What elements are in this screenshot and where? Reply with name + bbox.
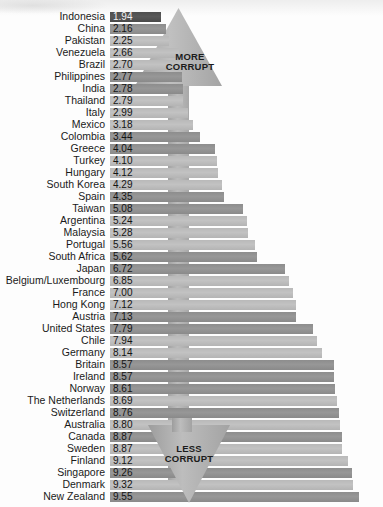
value-bar: 5.56 <box>110 240 255 250</box>
country-label: South Korea <box>0 179 105 190</box>
bar-row: Austria7.13 <box>0 312 383 323</box>
bar-value-label: 8.69 <box>113 395 132 406</box>
country-label: Hong Kong <box>0 299 105 310</box>
value-bar: 7.94 <box>110 336 317 346</box>
bar-rows: Indonesia1.94China2.16Pakistan2.25Venezu… <box>0 0 383 507</box>
country-label: Taiwan <box>0 203 105 214</box>
value-bar: 2.79 <box>110 96 183 106</box>
value-bar: 4.29 <box>110 180 222 190</box>
value-bar: 5.24 <box>110 216 247 226</box>
country-label: Austria <box>0 311 105 322</box>
bar-row: South Korea4.29 <box>0 180 383 191</box>
value-bar: 5.28 <box>110 228 248 238</box>
corruption-index-chart: Indonesia1.94China2.16Pakistan2.25Venezu… <box>0 0 383 507</box>
bar-row: Greece4.04 <box>0 144 383 155</box>
bar-value-label: 5.08 <box>113 203 132 214</box>
bar-value-label: 2.16 <box>113 23 132 34</box>
bar-value-label: 7.94 <box>113 335 132 346</box>
bar-value-label: 3.18 <box>113 119 132 130</box>
bar-value-label: 8.14 <box>113 347 132 358</box>
country-label: Britain <box>0 359 105 370</box>
country-label: Finland <box>0 455 105 466</box>
bar-row: Malaysia5.28 <box>0 228 383 239</box>
value-bar: 6.72 <box>110 264 285 274</box>
bar-row: Germany8.14 <box>0 348 383 359</box>
bar-value-label: 7.12 <box>113 299 132 310</box>
value-bar: 4.10 <box>110 156 217 166</box>
bar-row: China2.16 <box>0 24 383 35</box>
bar-row: Indonesia1.94 <box>0 12 383 23</box>
bar-row: Mexico3.18 <box>0 120 383 131</box>
bar-row: Japan6.72 <box>0 264 383 275</box>
bar-value-label: 9.55 <box>113 491 132 502</box>
bar-value-label: 2.99 <box>113 107 132 118</box>
country-label: South Africa <box>0 251 105 262</box>
value-bar: 5.08 <box>110 204 243 214</box>
country-label: Philippines <box>0 71 105 82</box>
bar-value-label: 3.44 <box>113 131 132 142</box>
value-bar: 8.87 <box>110 432 342 442</box>
country-label: Argentina <box>0 215 105 226</box>
country-label: Australia <box>0 419 105 430</box>
bar-row: Italy2.99 <box>0 108 383 119</box>
value-bar: 3.44 <box>110 132 200 142</box>
value-bar: 2.77 <box>110 72 182 82</box>
country-label: Pakistan <box>0 35 105 46</box>
value-bar: 8.57 <box>110 372 334 382</box>
bar-value-label: 8.57 <box>113 371 132 382</box>
country-label: The Netherlands <box>0 395 105 406</box>
bar-row: Hong Kong7.12 <box>0 300 383 311</box>
value-bar: 7.79 <box>110 324 313 334</box>
country-label: France <box>0 287 105 298</box>
country-label: New Zealand <box>0 491 105 502</box>
bar-row: Philippines2.77 <box>0 72 383 83</box>
country-label: United States <box>0 323 105 334</box>
value-bar: 8.14 <box>110 348 322 358</box>
country-label: Venezuela <box>0 47 105 58</box>
value-bar: 2.25 <box>110 36 169 46</box>
country-label: Singapore <box>0 467 105 478</box>
value-bar: 8.69 <box>110 396 337 406</box>
bar-value-label: 7.13 <box>113 311 132 322</box>
bar-row: India2.78 <box>0 84 383 95</box>
bar-row: Spain4.35 <box>0 192 383 203</box>
country-label: Brazil <box>0 59 105 70</box>
value-bar: 4.35 <box>110 192 224 202</box>
bar-value-label: 6.72 <box>113 263 132 274</box>
bar-row: Canada8.87 <box>0 432 383 443</box>
value-bar: 2.99 <box>110 108 188 118</box>
country-label: Germany <box>0 347 105 358</box>
value-bar: 8.76 <box>110 408 339 418</box>
bar-row: Australia8.80 <box>0 420 383 431</box>
value-bar: 8.61 <box>110 384 335 394</box>
bar-row: Chile7.94 <box>0 336 383 347</box>
bar-row: United States7.79 <box>0 324 383 335</box>
bar-row: France7.00 <box>0 288 383 299</box>
value-bar: 9.26 <box>110 468 352 478</box>
bar-row: Britain8.57 <box>0 360 383 371</box>
bar-value-label: 8.87 <box>113 431 132 442</box>
bar-value-label: 4.35 <box>113 191 132 202</box>
bar-row: Singapore9.26 <box>0 468 383 479</box>
bar-row: Belgium/Luxembourg6.85 <box>0 276 383 287</box>
bar-value-label: 5.24 <box>113 215 132 226</box>
bar-row: Switzerland8.76 <box>0 408 383 419</box>
bar-row: Portugal5.56 <box>0 240 383 251</box>
country-label: Colombia <box>0 131 105 142</box>
bar-value-label: 5.56 <box>113 239 132 250</box>
bar-value-label: 1.94 <box>113 11 132 22</box>
country-label: Chile <box>0 335 105 346</box>
bar-row: Hungary4.12 <box>0 168 383 179</box>
bar-value-label: 9.32 <box>113 479 132 490</box>
bar-value-label: 9.12 <box>113 455 132 466</box>
country-label: Switzerland <box>0 407 105 418</box>
country-label: Norway <box>0 383 105 394</box>
country-label: Turkey <box>0 155 105 166</box>
country-label: Ireland <box>0 371 105 382</box>
bar-value-label: 4.29 <box>113 179 132 190</box>
bar-value-label: 2.66 <box>113 47 132 58</box>
bar-value-label: 8.61 <box>113 383 132 394</box>
bar-value-label: 5.62 <box>113 251 132 262</box>
value-bar: 9.32 <box>110 480 353 490</box>
value-bar: 5.62 <box>110 252 257 262</box>
